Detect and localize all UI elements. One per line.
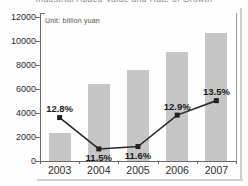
growth-point-label: 12.9% bbox=[164, 102, 191, 112]
x-axis-line bbox=[40, 161, 237, 162]
y-axis-top-cap bbox=[40, 13, 45, 14]
x-axis-label: 2006 bbox=[157, 165, 197, 176]
y-axis-tick bbox=[36, 137, 40, 138]
x-axis-label: 2004 bbox=[79, 165, 119, 176]
x-axis-label: 2005 bbox=[118, 165, 158, 176]
bar-2003 bbox=[49, 133, 71, 161]
chart-title: Industrial Added Value and Rate of Growt… bbox=[0, 0, 248, 4]
x-axis-tick bbox=[197, 161, 198, 164]
frame-shadow-bottom bbox=[37, 179, 243, 181]
chart-figure: Industrial Added Value and Rate of Growt… bbox=[0, 0, 248, 186]
y-axis-label: 10000 bbox=[6, 37, 36, 46]
frame-shadow-right bbox=[240, 8, 242, 181]
x-axis-label: 2007 bbox=[196, 165, 236, 176]
y-axis-label: 8000 bbox=[6, 61, 36, 70]
y-axis-tick bbox=[36, 113, 40, 114]
x-axis-label: 2003 bbox=[40, 165, 80, 176]
growth-point-label: 11.6% bbox=[125, 151, 151, 161]
y-axis-tick bbox=[36, 41, 40, 42]
y-axis-line bbox=[40, 13, 41, 161]
bar-2004 bbox=[88, 84, 110, 161]
y-axis-label: 4000 bbox=[6, 109, 36, 118]
growth-point-label: 12.8% bbox=[46, 104, 73, 114]
x-axis-tick bbox=[158, 161, 159, 164]
y-axis-label: 6000 bbox=[6, 85, 36, 94]
unit-label: Unit: billion yuan bbox=[45, 17, 100, 24]
bar-2005 bbox=[127, 70, 149, 161]
y-axis-tick bbox=[36, 89, 40, 90]
y-axis-tick bbox=[36, 65, 40, 66]
growth-point-label: 11.5% bbox=[86, 153, 112, 163]
growth-marker bbox=[57, 115, 62, 120]
y-axis-label: 0 bbox=[6, 157, 36, 166]
right-border-line bbox=[236, 13, 237, 161]
y-axis-label: 2000 bbox=[6, 133, 36, 142]
x-axis-tick bbox=[40, 161, 41, 164]
x-axis-tick bbox=[79, 161, 80, 164]
x-axis-tick bbox=[236, 161, 237, 164]
y-axis-label: 12000 bbox=[6, 13, 36, 22]
y-axis-tick bbox=[36, 17, 40, 18]
x-axis-tick bbox=[118, 161, 119, 164]
growth-point-label: 13.5% bbox=[203, 87, 230, 97]
